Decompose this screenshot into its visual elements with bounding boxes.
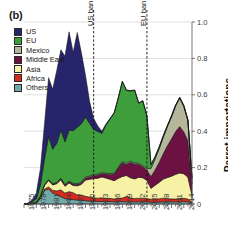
legend-label: Middle East bbox=[26, 55, 65, 64]
x-tick-label: 1990 bbox=[88, 194, 97, 210]
legend-item-middle-east: Middle East bbox=[14, 55, 65, 64]
y-axis-label: Parrot importations bbox=[224, 77, 229, 172]
legend-label: EU bbox=[26, 36, 36, 45]
y-tick-label: 0.8 bbox=[197, 54, 208, 63]
x-tick-label: 2002 bbox=[138, 194, 147, 210]
legend-item-us: US bbox=[14, 27, 65, 36]
x-tick-label: 1987 bbox=[76, 194, 85, 210]
legend-item-others: Others bbox=[14, 83, 65, 92]
legend-swatch-icon bbox=[14, 56, 22, 64]
legend-label: US bbox=[26, 27, 36, 36]
legend-label: Others bbox=[26, 83, 48, 92]
legend-label: Mexico bbox=[26, 46, 49, 55]
legend-item-asia: Asia bbox=[14, 65, 65, 74]
legend-item-africa: Africa bbox=[14, 74, 65, 83]
x-tick-label: 1978 bbox=[39, 194, 48, 210]
eu-ban-label: EU ban bbox=[139, 1, 148, 26]
x-tick-label: 1996 bbox=[113, 194, 122, 210]
x-tick-label: 1984 bbox=[64, 194, 73, 210]
legend-swatch-icon bbox=[14, 65, 22, 73]
us-ban-label: US ban bbox=[86, 1, 95, 26]
y-tick-label: 0 bbox=[197, 200, 201, 209]
x-tick-label: 1993 bbox=[101, 194, 110, 210]
x-tick-label: 2011 bbox=[175, 194, 184, 210]
legend-item-eu: EU bbox=[14, 36, 65, 45]
figure-panel: (b) USEUMexicoMiddle EastAsiaAfricaOther… bbox=[0, 0, 228, 249]
x-tick-label: 1981 bbox=[52, 194, 61, 210]
x-tick-label: 2008 bbox=[162, 194, 171, 210]
legend-label: Asia bbox=[26, 65, 40, 74]
y-tick-label: 0.6 bbox=[197, 90, 208, 99]
legend-item-mexico: Mexico bbox=[14, 46, 65, 55]
y-tick-label: 0.4 bbox=[197, 127, 208, 136]
legend-swatch-icon bbox=[14, 28, 22, 36]
x-tick-label: 2005 bbox=[150, 194, 159, 210]
y-tick-label: 1.0 bbox=[197, 18, 208, 27]
legend-swatch-icon bbox=[14, 46, 22, 54]
legend-swatch-icon bbox=[14, 37, 22, 45]
legend-swatch-icon bbox=[14, 84, 22, 92]
x-tick-label: 1975 bbox=[27, 194, 36, 210]
legend-label: Africa bbox=[26, 74, 45, 83]
y-tick-label: 0.2 bbox=[197, 163, 208, 172]
legend-swatch-icon bbox=[14, 74, 22, 82]
x-tick-label: 2014 bbox=[187, 194, 196, 210]
x-tick-label: 1999 bbox=[125, 194, 134, 210]
legend: USEUMexicoMiddle EastAsiaAfricaOthers bbox=[14, 27, 65, 93]
